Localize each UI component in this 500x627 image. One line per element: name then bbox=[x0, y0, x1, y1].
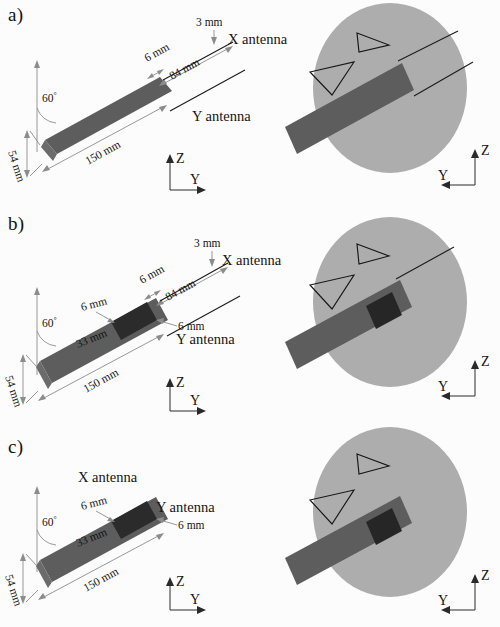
angle-label: 60° bbox=[42, 91, 57, 104]
axis-label-y: Y bbox=[438, 379, 448, 394]
axis-label-y: Y bbox=[438, 593, 448, 608]
axis-label-z: Z bbox=[176, 151, 185, 166]
label-slab-length: 150 mm bbox=[81, 366, 120, 395]
dimension-inset-left bbox=[96, 511, 115, 522]
dimension-thickness bbox=[209, 251, 215, 267]
panel-a-right-view: Z Y bbox=[262, 0, 500, 209]
label-x-antenna: X antenna bbox=[78, 469, 138, 485]
panel-a-left-view: 60° 3 mm 6 mm 84 mm 150 mm 54 mm X anten… bbox=[0, 0, 262, 209]
label-thickness: 3 mm bbox=[194, 237, 221, 249]
axis-label-y: Y bbox=[438, 168, 448, 183]
axis-label-z: Z bbox=[481, 354, 490, 369]
dimension-inset-left bbox=[96, 312, 115, 323]
label-slab-length: 150 mm bbox=[81, 565, 120, 594]
angle-label: 60° bbox=[42, 316, 57, 329]
panel-c: c) bbox=[0, 420, 500, 627]
label-slab-width: 54 mm bbox=[6, 149, 27, 183]
dimension-gap bbox=[144, 290, 161, 300]
label-slab-length: 150 mm bbox=[83, 138, 122, 167]
panel-b-left-view: 60° 3 mm 6 mm 84 mm 6 mm 6 mm 33 mm 150 … bbox=[0, 209, 262, 420]
label-slab-width: 54 mm bbox=[3, 573, 24, 607]
panel-c-right-view: Z Y bbox=[262, 420, 500, 627]
angle-label: 60° bbox=[42, 515, 57, 528]
label-gap: 6 mm bbox=[142, 40, 171, 63]
label-inset-right: 6 mm bbox=[178, 519, 205, 531]
axis-label-z: Z bbox=[176, 375, 185, 390]
axis-label-y: Y bbox=[190, 172, 200, 187]
label-thickness: 3 mm bbox=[196, 16, 223, 28]
label-slab-width: 54 mm bbox=[3, 374, 24, 408]
panel-b-right-view: Z Y bbox=[262, 209, 500, 420]
label-gap: 6 mm bbox=[137, 262, 166, 285]
axis-label-y: Y bbox=[190, 592, 200, 607]
label-inset-left: 6 mm bbox=[79, 294, 108, 312]
panel-b: b) bbox=[0, 209, 500, 420]
figure-root: a) bbox=[0, 0, 500, 627]
panel-a: a) bbox=[0, 0, 500, 209]
label-inset-left: 6 mm bbox=[79, 493, 108, 511]
panel-c-left-view: 60° 6 mm 6 mm 33 mm 150 mm 54 mm X anten… bbox=[0, 420, 262, 627]
label-y-antenna: Y antenna bbox=[192, 108, 251, 124]
angle-arc bbox=[37, 108, 56, 123]
axis-label-z: Z bbox=[481, 568, 490, 583]
axis-label-z: Z bbox=[176, 574, 185, 589]
label-y-antenna: Y antenna bbox=[156, 499, 215, 515]
dimension-slab-width bbox=[24, 130, 42, 178]
label-y-antenna: Y antenna bbox=[176, 331, 235, 347]
label-antenna-length: 84 mm bbox=[163, 277, 197, 303]
dimension-thickness bbox=[211, 30, 217, 45]
label-antenna-length: 84 mm bbox=[167, 56, 201, 82]
angle-reference-line bbox=[34, 486, 40, 572]
axis-label-y: Y bbox=[190, 393, 200, 408]
axis-label-z: Z bbox=[481, 143, 490, 158]
dimension-gap bbox=[147, 69, 164, 79]
angle-arc bbox=[37, 530, 56, 545]
angle-arc bbox=[37, 331, 56, 346]
